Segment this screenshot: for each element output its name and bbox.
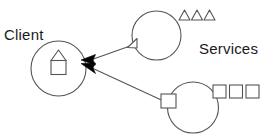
bottom-service-node[interactable] [161,82,219,133]
square-interface-row [213,85,259,98]
diagram-canvas: Client Services [0,0,273,140]
top-service-circle [132,11,181,60]
client-node[interactable] [31,41,86,96]
top-service-node[interactable] [128,11,182,60]
bottom-service-square-port-icon [161,94,176,108]
dependency-arrow-bottom-service-to-client-line [92,68,164,101]
diagram-vector-layer [0,0,273,140]
client-label: Client [4,27,44,42]
square-interface-icon-3[interactable] [246,85,259,98]
client-inner-square-icon [51,61,66,75]
triangle-interface-icon-2[interactable] [192,10,203,20]
dependency-arrow-top-service-to-client-line [92,46,132,60]
triangle-interface-icon-1[interactable] [179,10,190,20]
square-interface-icon-1[interactable] [213,85,226,98]
triangle-interface-row [179,10,215,20]
services-label: Services [199,41,258,56]
triangle-interface-icon-3[interactable] [204,10,215,20]
square-interface-icon-2[interactable] [230,85,243,98]
